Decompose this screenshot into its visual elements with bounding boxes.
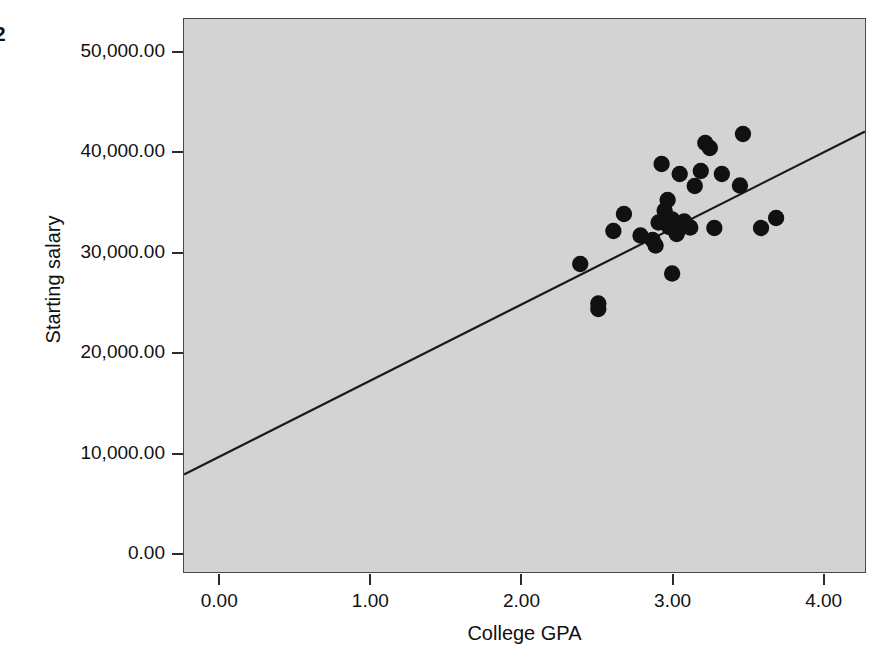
data-points — [572, 126, 784, 317]
data-point — [687, 178, 703, 194]
data-point — [653, 156, 669, 172]
regression-line-segment — [184, 132, 865, 475]
x-tick-mark — [369, 574, 371, 585]
y-tick-mark — [172, 252, 183, 254]
plot-area — [183, 18, 866, 573]
scatter-plot-figure: 2 Starting salary 0.0010,000.0020,000.00… — [0, 0, 893, 665]
x-tick-mark — [218, 574, 220, 585]
x-tick-label: 2.00 — [503, 590, 540, 611]
regression-line — [184, 132, 865, 475]
x-tick-mark — [672, 574, 674, 585]
data-point — [732, 177, 748, 193]
data-point — [693, 163, 709, 179]
x-tick-mark — [520, 574, 522, 585]
x-tick-label: 0.00 — [201, 590, 238, 611]
data-point — [714, 166, 730, 182]
y-tick-label: 30,000.00 — [80, 241, 165, 263]
data-point — [682, 219, 698, 235]
y-tick-label: 40,000.00 — [80, 140, 165, 162]
data-point — [605, 223, 621, 239]
y-tick-mark — [172, 352, 183, 354]
y-tick-label: 20,000.00 — [80, 341, 165, 363]
y-tick-label: 50,000.00 — [80, 40, 165, 62]
data-point — [753, 220, 769, 236]
data-point — [659, 192, 675, 208]
data-point — [706, 220, 722, 236]
x-tick-label: 4.00 — [805, 590, 842, 611]
data-point — [664, 265, 680, 281]
plot-canvas — [184, 19, 865, 572]
data-point — [672, 166, 688, 182]
y-tick-mark — [172, 453, 183, 455]
y-tick-mark — [172, 51, 183, 53]
x-tick-mark — [823, 574, 825, 585]
data-point — [702, 140, 718, 156]
x-tick-label: 3.00 — [654, 590, 691, 611]
y-tick-mark — [172, 553, 183, 555]
data-point — [647, 237, 663, 253]
data-point — [768, 210, 784, 226]
x-tick-label: 1.00 — [352, 590, 389, 611]
data-point — [572, 256, 588, 272]
data-point — [735, 126, 751, 142]
data-point — [590, 301, 606, 317]
y-tick-label: 10,000.00 — [80, 442, 165, 464]
x-axis-title: College GPA — [183, 622, 866, 645]
data-point — [616, 206, 632, 222]
y-tick-label: 0.00 — [128, 542, 165, 564]
y-tick-mark — [172, 151, 183, 153]
